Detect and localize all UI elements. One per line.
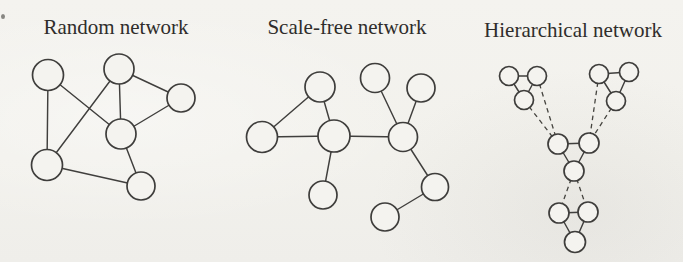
network-node-rl bbox=[422, 174, 449, 201]
network-node-b bbox=[104, 54, 134, 84]
network-graphs bbox=[32, 54, 639, 253]
network-panel-2 bbox=[500, 63, 639, 253]
panel-title-random-network: Random network bbox=[43, 15, 189, 39]
panel-title-scale-free-network: Scale-free network bbox=[267, 15, 427, 39]
network-panel-1 bbox=[247, 64, 449, 232]
network-node-a2 bbox=[528, 67, 547, 86]
network-node-t1 bbox=[305, 72, 335, 102]
network-node-t3 bbox=[407, 74, 435, 102]
network-node-a3 bbox=[515, 91, 534, 110]
network-node-d bbox=[106, 119, 136, 149]
network-node-h bbox=[318, 120, 350, 152]
network-node-b2 bbox=[620, 63, 639, 82]
network-node-c1 bbox=[549, 203, 569, 223]
network-node-bt bbox=[371, 203, 399, 231]
network-node-a1 bbox=[500, 67, 519, 86]
three-networks-figure: Random network Scale-free network Hierar… bbox=[0, 0, 683, 262]
network-node-bl bbox=[309, 181, 337, 209]
network-node-b1 bbox=[590, 65, 609, 84]
network-node-a bbox=[33, 60, 64, 91]
network-node-m1 bbox=[548, 134, 568, 154]
network-node-f bbox=[127, 172, 155, 200]
network-node-e bbox=[32, 150, 63, 181]
network-node-b3 bbox=[607, 92, 626, 111]
network-node-c bbox=[167, 84, 195, 112]
network-node-c3 bbox=[565, 232, 586, 253]
network-panel-0 bbox=[32, 54, 196, 200]
network-node-m3 bbox=[564, 161, 584, 181]
network-node-c2 bbox=[578, 202, 598, 222]
network-node-m2 bbox=[579, 133, 599, 153]
network-node-r bbox=[389, 123, 418, 152]
network-node-l bbox=[247, 122, 278, 153]
panel-title-hierarchical-network: Hierarchical network bbox=[484, 18, 662, 42]
networks-diagram: Random network Scale-free network Hierar… bbox=[0, 0, 683, 262]
network-node-t2 bbox=[361, 64, 390, 93]
